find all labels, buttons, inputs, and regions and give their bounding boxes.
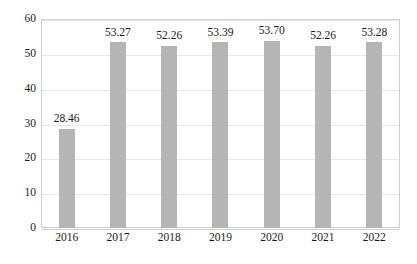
- bar[interactable]: [110, 42, 126, 228]
- x-axis-tick-label: 2016: [41, 232, 92, 244]
- y-axis-tick-label: 10: [2, 187, 36, 199]
- y-axis-tick-label: 60: [2, 13, 36, 25]
- bar-value-label: 28.46: [54, 113, 80, 125]
- bars-layer: 28.4653.2752.2653.3953.7052.2653.28: [41, 19, 400, 228]
- bar-chart: 0102030405060 28.4653.2752.2653.3953.705…: [0, 0, 417, 264]
- bar-group: 52.26: [297, 19, 348, 228]
- y-axis-tick-label: 0: [2, 222, 36, 234]
- gridline-0: [42, 229, 399, 230]
- bar[interactable]: [264, 41, 280, 228]
- y-axis-tick-label: 30: [2, 118, 36, 130]
- bar-group: 52.26: [144, 19, 195, 228]
- y-axis-tick-label: 20: [2, 153, 36, 165]
- bar[interactable]: [161, 46, 177, 228]
- bar-value-label: 53.28: [361, 27, 387, 39]
- bar-group: 28.46: [41, 19, 92, 228]
- bar[interactable]: [315, 46, 331, 228]
- y-axis-tick-label: 50: [2, 48, 36, 60]
- x-axis-tick-label: 2020: [246, 232, 297, 244]
- x-axis-tick-label: 2017: [92, 232, 143, 244]
- bar-value-label: 53.70: [259, 25, 285, 37]
- x-axis-tick-label: 2022: [349, 232, 400, 244]
- bar-value-label: 53.27: [105, 27, 131, 39]
- bar[interactable]: [59, 129, 75, 228]
- bar[interactable]: [366, 42, 382, 228]
- bar-value-label: 52.26: [156, 30, 182, 42]
- x-axis: 2016201720182019202020212022: [41, 232, 400, 254]
- y-axis-tick-label: 40: [2, 83, 36, 95]
- x-axis-tick-label: 2021: [297, 232, 348, 244]
- bar-value-label: 53.39: [208, 27, 234, 39]
- bar-group: 53.39: [195, 19, 246, 228]
- bar[interactable]: [212, 42, 228, 228]
- bar-value-label: 52.26: [310, 30, 336, 42]
- x-axis-tick-label: 2018: [144, 232, 195, 244]
- bar-group: 53.28: [349, 19, 400, 228]
- y-axis: 0102030405060: [0, 0, 36, 264]
- bar-group: 53.70: [246, 19, 297, 228]
- bar-group: 53.27: [92, 19, 143, 228]
- x-axis-tick-label: 2019: [195, 232, 246, 244]
